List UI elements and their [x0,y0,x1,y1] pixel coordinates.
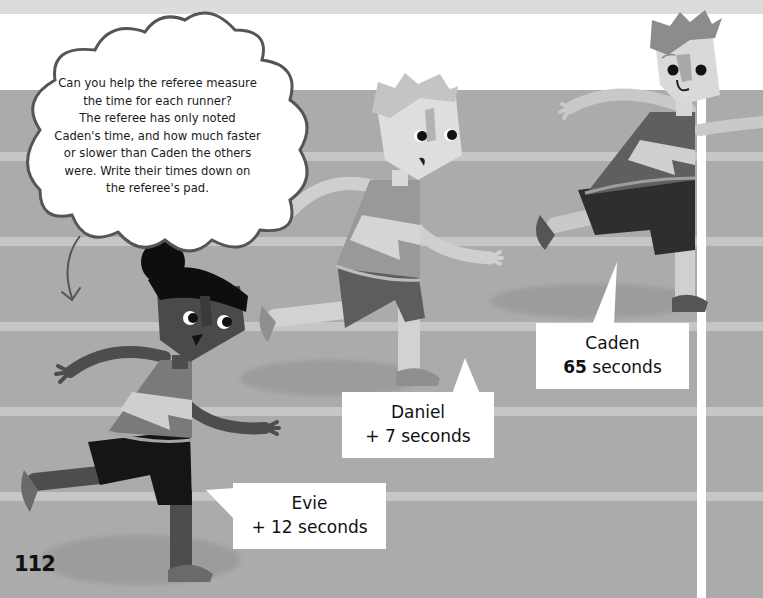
instruction-line: the referee's pad. [45,180,270,198]
instruction-text: Can you help the referee measure the tim… [45,75,270,198]
caden-label-pointer [592,262,617,325]
time-unit: seconds [298,517,368,537]
time-value: + 7 [365,426,395,446]
daniel-label-pointer [452,358,480,394]
instruction-line: or slower than Caden the others [45,145,270,163]
runner-name: Caden [536,323,689,355]
activity-page: Can you help the referee measure the tim… [0,0,763,598]
runner-name: Daniel [342,392,494,424]
runner-time: + 7 seconds [342,424,494,448]
runner-time: + 12 seconds [233,515,386,539]
daniel-label: Daniel + 7 seconds [342,392,494,458]
runner-time: 65 seconds [536,355,689,379]
runner-name: Evie [233,483,386,515]
instruction-line: The referee has only noted [45,110,270,128]
time-value: 65 [563,357,587,377]
caden-label: Caden 65 seconds [536,323,689,389]
time-unit: seconds [401,426,471,446]
page-number: 112 [14,552,55,576]
instruction-line: were. Write their times down on [45,163,270,181]
time-unit: seconds [592,357,662,377]
time-value: + 12 [251,517,292,537]
instruction-line: the time for each runner? [45,93,270,111]
evie-label: Evie + 12 seconds [233,483,386,549]
evie-label-pointer [206,488,235,520]
instruction-line: Can you help the referee measure [45,75,270,93]
instruction-line: Caden's time, and how much faster [45,128,270,146]
caden-figure [536,10,763,312]
